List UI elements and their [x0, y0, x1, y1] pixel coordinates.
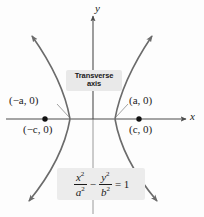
vertex-right-label: (a, 0)	[129, 94, 152, 106]
fraction-x-denominator: a2	[74, 184, 87, 198]
fraction-y-denominator: b2	[99, 184, 112, 198]
y-axis-label: y	[95, 2, 100, 14]
fraction-x-numerator: x2	[74, 171, 86, 184]
vertex-left-label: (−a, 0)	[9, 94, 38, 106]
hyperbola-figure: y x Transverse axis (−a, 0) (a, 0) (−c, …	[0, 0, 204, 217]
focus-right-label: (c, 0)	[129, 123, 152, 135]
focus-left-label: (−c, 0)	[23, 123, 52, 135]
hyperbola-equation: x2 a2 − y2 b2 = 1	[57, 168, 145, 200]
fraction-y: y2 b2	[99, 171, 112, 197]
equation-rhs: = 1	[115, 178, 129, 190]
equation-operator: −	[90, 178, 96, 190]
focus-point-right	[136, 116, 141, 121]
hyperbola-left-branch	[32, 36, 70, 119]
focus-point-left	[42, 116, 47, 121]
x-axis-label: x	[190, 110, 195, 122]
transverse-axis-label: Transverse axis	[66, 70, 122, 91]
fraction-x: x2 a2	[74, 171, 87, 197]
fraction-y-numerator: y2	[99, 171, 111, 184]
transverse-axis-line2: axis	[66, 80, 122, 88]
